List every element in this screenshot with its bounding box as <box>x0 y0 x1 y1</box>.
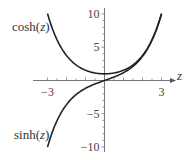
hyperbolic-functions-plot: −33 105−5−10 cosh(z) sinh(z) z <box>0 0 193 160</box>
y-tick-label: −10 <box>81 140 100 154</box>
sinh-label: sinh(z) <box>14 127 49 142</box>
y-tick-label: 5 <box>94 40 100 54</box>
y-tick-label: 10 <box>88 7 100 21</box>
x-tick-labels: −33 <box>41 85 164 99</box>
x-axis-arrow-icon <box>170 78 176 83</box>
x-tick-label: 3 <box>159 85 165 99</box>
cosh-label: cosh(z) <box>12 19 50 34</box>
x-tick-label: −3 <box>41 85 54 99</box>
x-axis-label: z <box>176 68 182 83</box>
y-tick-label: −5 <box>87 107 100 121</box>
